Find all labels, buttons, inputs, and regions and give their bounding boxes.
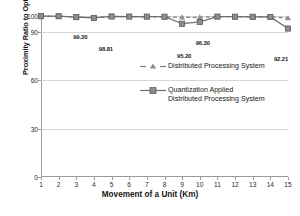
x-tick-label: 3	[74, 181, 78, 188]
x-tick-label: 8	[163, 181, 167, 188]
legend-item-quantization-applied: Quantization Applied Distributed Process…	[140, 86, 265, 105]
x-tick-mark	[41, 177, 42, 180]
y-tick-label: 90	[31, 29, 38, 36]
data-point-square	[285, 26, 290, 31]
legend-label: Quantization Applied Distributed Process…	[168, 86, 265, 105]
x-tick-label: 11	[214, 181, 221, 188]
x-tick-label: 6	[127, 181, 131, 188]
data-point-label: 92.21	[274, 56, 288, 62]
y-tick-label: 60	[31, 77, 38, 84]
x-tick-mark	[112, 177, 113, 180]
legend-marker-triangle-dashed-icon	[140, 62, 166, 71]
x-tick-label: 2	[57, 181, 61, 188]
series-2	[38, 14, 290, 32]
x-tick-label: 10	[196, 181, 203, 188]
x-tick-label: 15	[284, 181, 291, 188]
chart-figure: Proximity Ratio to Optimal Path (%) 0306…	[0, 0, 300, 216]
data-point-square	[250, 14, 255, 19]
x-tick-mark	[217, 177, 218, 180]
data-point-label: 98.81	[99, 46, 113, 52]
y-tick-label: 100	[27, 13, 38, 20]
data-point-square	[268, 14, 273, 19]
x-tick-mark	[253, 177, 254, 180]
x-tick-mark	[129, 177, 130, 180]
x-tick-mark	[235, 177, 236, 180]
x-tick-mark	[165, 177, 166, 180]
x-axis-title: Movement of a Unit (Km)	[0, 190, 300, 199]
data-point-square	[232, 14, 237, 19]
x-tick-mark	[200, 177, 201, 180]
legend-label: Distributed Processing System	[168, 62, 265, 72]
chart-legend: Distributed Processing System Quantizati…	[140, 62, 265, 119]
data-point-square	[109, 14, 114, 19]
data-point-square	[91, 15, 96, 20]
x-tick-label: 5	[110, 181, 114, 188]
data-point-square	[144, 14, 149, 19]
x-tick-label: 4	[92, 181, 96, 188]
data-point-label: 95.20	[177, 53, 191, 59]
x-tick-label: 12	[231, 181, 238, 188]
legend-item-distributed-processing-system: Distributed Processing System	[140, 62, 265, 72]
data-point-square	[38, 14, 43, 19]
x-tick-mark	[59, 177, 60, 180]
data-point-square	[197, 19, 202, 24]
x-tick-label: 14	[267, 181, 274, 188]
data-point-square	[180, 21, 185, 26]
x-tick-mark	[76, 177, 77, 180]
x-tick-mark	[270, 177, 271, 180]
data-point-square	[215, 14, 220, 19]
data-point-square	[74, 15, 79, 20]
x-tick-mark	[147, 177, 148, 180]
data-point-square	[56, 14, 61, 19]
x-tick-label: 9	[180, 181, 184, 188]
x-tick-label: 13	[249, 181, 256, 188]
data-point-label: 96.30	[196, 40, 210, 46]
data-point-square	[162, 14, 167, 19]
x-tick-mark	[182, 177, 183, 180]
x-tick-label: 7	[145, 181, 149, 188]
figure-caption	[0, 206, 300, 215]
data-point-square	[127, 14, 132, 19]
data-point-label: 99.30	[73, 34, 87, 40]
legend-marker-square-solid-icon	[140, 86, 166, 95]
x-tick-mark	[94, 177, 95, 180]
y-tick-label: 30	[31, 125, 38, 132]
x-tick-mark	[288, 177, 289, 180]
x-tick-label: 1	[39, 181, 43, 188]
